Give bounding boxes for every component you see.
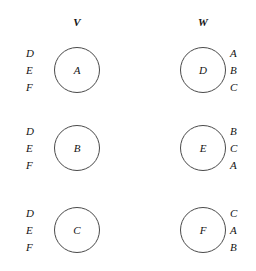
diagram-row: D E F B E B C A <box>0 125 256 173</box>
preference-item: D <box>26 126 34 137</box>
diagram-row: D E F A D A B C <box>0 47 256 95</box>
preference-list-right: A B C <box>230 48 252 93</box>
node-circle-left[interactable]: A <box>54 47 100 93</box>
preference-item: F <box>26 160 33 171</box>
preference-item: E <box>26 65 33 76</box>
preference-list-right: C A B <box>230 208 252 253</box>
preference-item: F <box>26 242 33 253</box>
preference-item: E <box>26 143 33 154</box>
node-circle-right[interactable]: D <box>180 47 226 93</box>
node-label: D <box>199 64 207 75</box>
preference-item: F <box>26 82 33 93</box>
preference-list-left: D E F <box>26 126 48 171</box>
preference-item: B <box>230 126 237 137</box>
diagram-row: D E F C F C A B <box>0 207 256 255</box>
preference-list-left: D E F <box>26 48 48 93</box>
node-circle-left[interactable]: C <box>54 207 100 253</box>
preference-item: D <box>26 48 34 59</box>
node-circle-right[interactable]: E <box>180 125 226 171</box>
bipartite-preference-diagram: V W D E F A D A B C D E F B E <box>0 0 256 271</box>
preference-list-left: D E F <box>26 208 48 253</box>
column-header-v: V <box>57 17 97 28</box>
preference-item: C <box>230 208 237 219</box>
preference-item: D <box>26 208 34 219</box>
node-label: B <box>74 142 81 153</box>
node-circle-right[interactable]: F <box>180 207 226 253</box>
preference-list-right: B C A <box>230 126 252 171</box>
node-label: A <box>74 64 81 75</box>
preference-item: A <box>230 160 237 171</box>
node-label: E <box>200 142 207 153</box>
preference-item: C <box>230 143 237 154</box>
node-label: F <box>200 224 207 235</box>
preference-item: B <box>230 65 237 76</box>
preference-item: B <box>230 242 237 253</box>
node-circle-left[interactable]: B <box>54 125 100 171</box>
preference-item: A <box>230 225 237 236</box>
node-label: C <box>73 224 80 235</box>
column-header-w: W <box>183 17 223 28</box>
preference-item: C <box>230 82 237 93</box>
preference-item: A <box>230 48 237 59</box>
preference-item: E <box>26 225 33 236</box>
